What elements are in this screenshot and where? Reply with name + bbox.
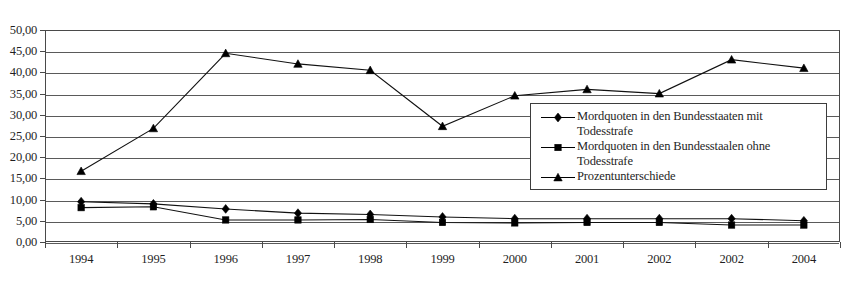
x-tick-label: 1995 [141, 252, 165, 267]
triangle-marker-icon [727, 55, 735, 63]
x-tick-mark [406, 242, 407, 248]
square-marker-icon [150, 204, 156, 210]
legend-marker-sample [539, 140, 577, 155]
x-tick-mark [117, 242, 118, 248]
y-tick-label: 30,00 [10, 107, 37, 122]
square-marker-icon [656, 219, 662, 225]
triangle-marker-icon [583, 85, 591, 93]
legend-label: Mordquoten in den Bundesstaaten mit Tode… [577, 109, 815, 138]
square-marker-icon [222, 217, 228, 223]
triangle-marker-icon [438, 122, 446, 130]
x-tick-mark [768, 242, 769, 248]
x-tick-label: 2002 [647, 252, 671, 267]
y-tick-label: 45,00 [10, 44, 37, 59]
x-tick-mark [623, 242, 624, 248]
y-tick-label: 50,00 [10, 23, 37, 38]
y-tick-label: 0,00 [16, 235, 37, 250]
diamond-marker-icon [554, 113, 561, 122]
x-tick-label: 1998 [358, 252, 382, 267]
x-axis: 1994199519961997199819992000200120022002… [45, 252, 840, 276]
y-tick-label: 10,00 [10, 192, 37, 207]
x-tick-mark [695, 242, 696, 248]
x-tick-mark [190, 242, 191, 248]
square-marker-icon [367, 216, 373, 222]
murder-rate-line-chart: 0,005,0010,0015,0020,0025,0030,0035,0040… [0, 0, 841, 292]
y-tick-label: 15,00 [10, 171, 37, 186]
diamond-marker-icon [222, 205, 229, 214]
chart-legend: Mordquoten in den Bundesstaaten mit Tode… [530, 103, 827, 190]
diamond-marker-icon [294, 209, 301, 218]
x-tick-label: 2002 [719, 252, 743, 267]
x-tick-label: 2001 [575, 252, 599, 267]
y-tick-label: 40,00 [10, 65, 37, 80]
legend-entry[interactable]: Mordquoten in den Bundesstaalen ohne Tod… [539, 139, 820, 168]
triangle-marker-icon [221, 49, 229, 57]
x-tick-mark [334, 242, 335, 248]
x-tick-mark [551, 242, 552, 248]
legend-entry[interactable]: Prozentunterschiede [539, 169, 820, 185]
y-tick-label: 5,00 [16, 213, 37, 228]
x-tick-label: 1999 [430, 252, 454, 267]
x-tick-label: 2004 [792, 252, 816, 267]
x-tick-mark [479, 242, 480, 248]
x-tick-label: 2000 [503, 252, 527, 267]
legend-label: Prozentunterschiede [577, 169, 676, 184]
x-tick-label: 1994 [69, 252, 93, 267]
y-tick-label: 25,00 [10, 129, 37, 144]
x-axis-ticks [45, 242, 840, 250]
x-tick-label: 1996 [214, 252, 238, 267]
square-marker-icon [801, 222, 807, 228]
y-axis: 0,005,0010,0015,0020,0025,0030,0035,0040… [0, 0, 45, 292]
y-tick-label: 35,00 [10, 86, 37, 101]
square-marker-icon [439, 219, 445, 225]
legend-marker-sample [539, 110, 577, 125]
legend-marker-sample [539, 170, 577, 185]
legend-entry[interactable]: Mordquoten in den Bundesstaaten mit Tode… [539, 109, 820, 138]
x-tick-mark [262, 242, 263, 248]
square-marker-icon [584, 219, 590, 225]
square-marker-icon [728, 222, 734, 228]
square-marker-icon [555, 144, 561, 150]
triangle-marker-icon [77, 167, 85, 175]
x-tick-label: 1997 [286, 252, 310, 267]
x-tick-mark [45, 242, 46, 248]
square-marker-icon [295, 217, 301, 223]
y-tick-label: 20,00 [10, 150, 37, 165]
legend-label: Mordquoten in den Bundesstaalen ohne Tod… [577, 139, 815, 168]
square-marker-icon [78, 204, 84, 210]
square-marker-icon [512, 220, 518, 226]
